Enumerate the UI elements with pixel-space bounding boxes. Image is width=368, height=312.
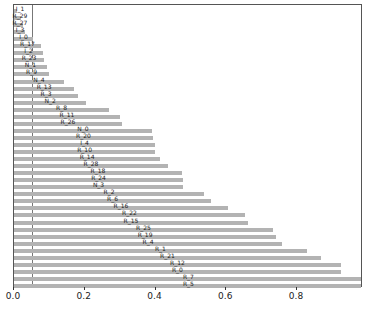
x-tick-label: 0.8 bbox=[289, 291, 303, 301]
x-tick-label: 0.6 bbox=[218, 291, 232, 301]
x-tick bbox=[84, 287, 85, 290]
x-tick bbox=[13, 287, 14, 290]
bar-label: R_5 bbox=[183, 281, 194, 287]
x-tick bbox=[225, 287, 226, 290]
x-tick-label: 0.4 bbox=[147, 291, 161, 301]
x-tick bbox=[296, 287, 297, 290]
x-tick bbox=[155, 287, 156, 290]
x-tick-label: 0.2 bbox=[77, 291, 91, 301]
x-tick-label: 0.0 bbox=[6, 291, 20, 301]
plot-area: I_1R_29R_27I_3I_0R_17I_2R_23N_1R_9N_4R_1… bbox=[13, 4, 362, 287]
bar-label: R_26 bbox=[61, 119, 76, 125]
bar-label: N_2 bbox=[44, 98, 55, 104]
bar-label: R_4 bbox=[143, 239, 154, 245]
bar-label: R_0 bbox=[172, 267, 183, 273]
